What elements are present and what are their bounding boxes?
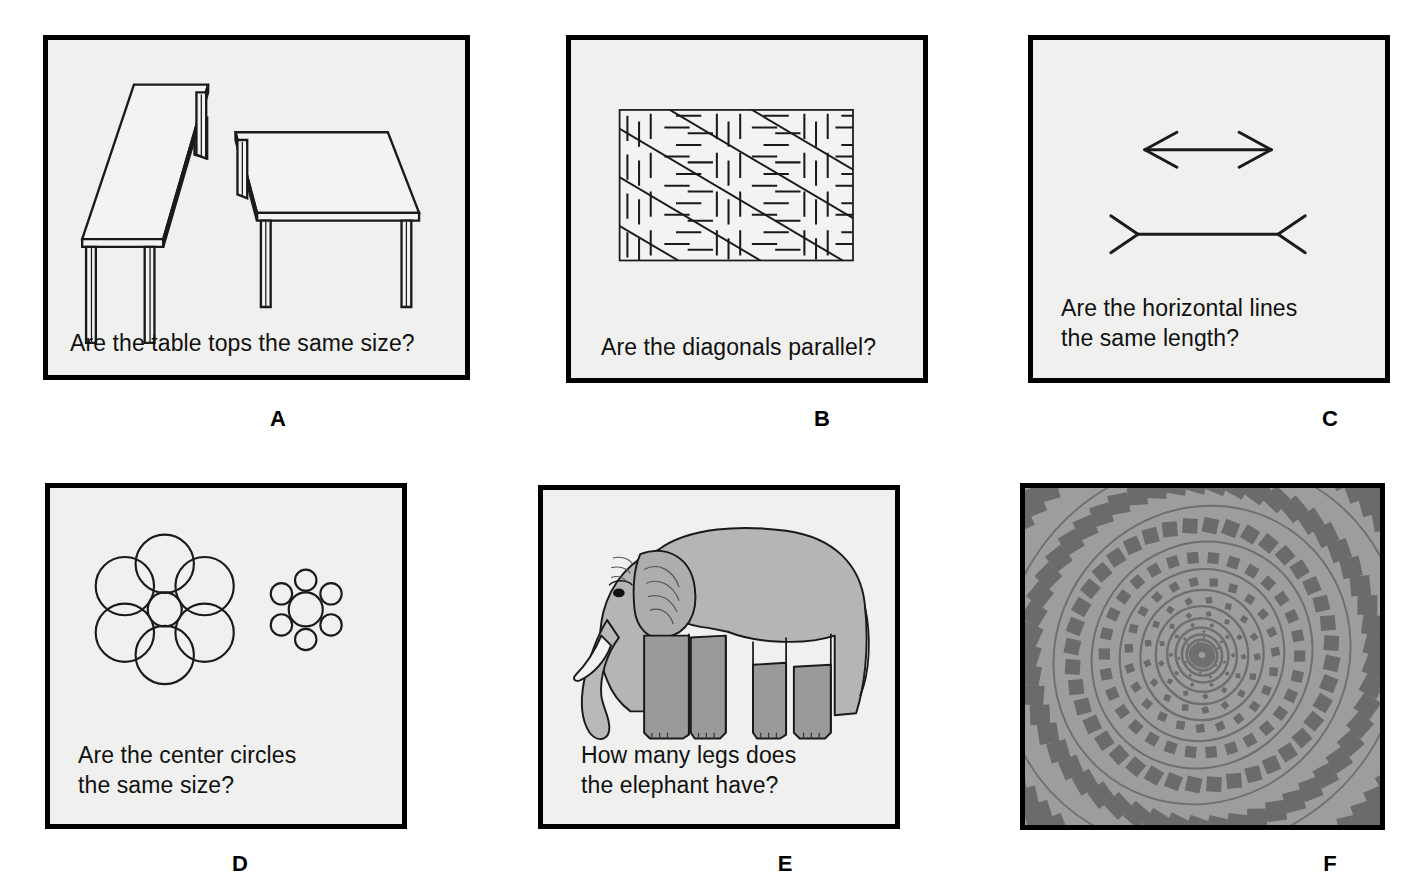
panel-b-caption: Are the diagonals parallel? [571, 332, 923, 362]
panel-label-e: E [755, 851, 815, 877]
panel-label-d: D [210, 851, 270, 877]
panel-label-c: C [1300, 406, 1360, 432]
panel-b: Are the diagonals parallel? [566, 35, 928, 383]
panel-c: Are the horizontal lines the same length… [1028, 35, 1390, 383]
panel-d: Are the center circles the same size? [45, 483, 407, 829]
shepard-tables-illustration [48, 40, 465, 375]
panel-d-caption: Are the center circles the same size? [50, 740, 402, 800]
panel-f [1020, 483, 1385, 830]
panel-a-caption: Are the table tops the same size? [48, 328, 465, 358]
illusions-figure: Are the table tops the same size? A [0, 0, 1419, 895]
panel-label-b: B [792, 406, 852, 432]
panel-e: How many legs does the elephant have? [538, 485, 900, 829]
panel-label-a: A [248, 406, 308, 432]
fraser-spiral-illustration [1025, 488, 1380, 825]
zollner-lines-illustration [571, 40, 923, 378]
panel-c-caption: Are the horizontal lines the same length… [1033, 293, 1385, 353]
panel-e-caption: How many legs does the elephant have? [543, 740, 895, 800]
panel-a: Are the table tops the same size? [43, 35, 470, 380]
panel-label-f: F [1300, 851, 1360, 877]
